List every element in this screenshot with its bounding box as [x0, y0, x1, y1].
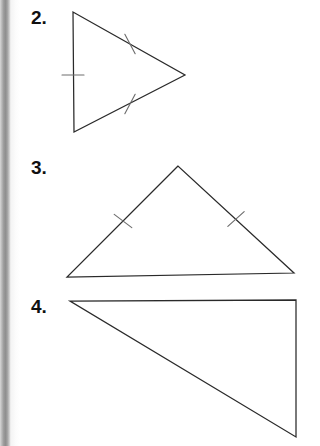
page-surface: [20, 0, 320, 446]
figure-label-2: 2.: [31, 8, 47, 27]
worksheet-page: 2. 3. 4.: [0, 0, 320, 446]
figure-label-4: 4.: [31, 297, 47, 316]
book-binding-shadow: [0, 0, 11, 446]
page-edge-highlight: [11, 0, 20, 446]
figure-label-3: 3.: [31, 158, 47, 177]
